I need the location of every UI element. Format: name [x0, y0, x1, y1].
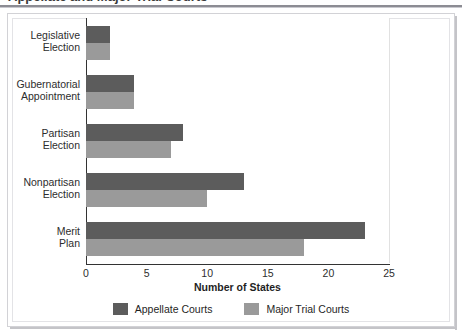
category-label-line: Nonpartisan — [0, 177, 80, 189]
title-divider-rule-secondary — [0, 7, 462, 8]
x-tick-label-0: 0 — [71, 267, 101, 279]
category-label-line: Election — [0, 189, 80, 201]
x-tick-label-25: 25 — [374, 267, 404, 279]
legend-swatch-icon — [113, 303, 128, 315]
bar-nonpartisan-election-appellate-courts — [86, 173, 244, 190]
category-label-nonpartisan-election: NonpartisanElection — [0, 177, 80, 200]
frame-shadow-bottom — [10, 327, 457, 329]
x-axis-title: Number of States — [86, 281, 389, 293]
bar-partisan-election-appellate-courts — [86, 124, 183, 141]
category-label-merit-plan: MeritPlan — [0, 226, 80, 249]
chart-legend: Appellate CourtsMajor Trial Courts — [0, 303, 462, 315]
category-label-line: Election — [0, 42, 80, 54]
legend-item-major-trial-courts: Major Trial Courts — [244, 303, 349, 315]
category-label-line: Appointment — [0, 91, 80, 103]
x-tick-label-10: 10 — [192, 267, 222, 279]
legend-label: Major Trial Courts — [266, 303, 349, 315]
category-label-line: Election — [0, 140, 80, 152]
category-label-partisan-election: PartisanElection — [0, 128, 80, 151]
bar-merit-plan-major-trial-courts — [86, 239, 304, 256]
category-label-line: Merit — [0, 226, 80, 238]
category-label-line: Legislative — [0, 30, 80, 42]
bar-gubernatorial-appointment-major-trial-courts — [86, 92, 134, 109]
legend-swatch-icon — [244, 303, 259, 315]
category-label-line: Plan — [0, 238, 80, 250]
category-label-line: Gubernatorial — [0, 79, 80, 91]
x-tick-label-20: 20 — [313, 267, 343, 279]
bar-merit-plan-appellate-courts — [86, 222, 365, 239]
cut-off-title-text: Appellate and Major Trial Courts — [8, 0, 207, 4]
frame-shadow-right — [455, 16, 457, 330]
x-axis-line — [86, 264, 390, 265]
category-label-line: Partisan — [0, 128, 80, 140]
legend-item-appellate-courts: Appellate Courts — [113, 303, 213, 315]
category-label-gubernatorial-appointment: GubernatorialAppointment — [0, 79, 80, 102]
bar-nonpartisan-election-major-trial-courts — [86, 190, 207, 207]
gridline-25 — [389, 18, 390, 263]
bar-gubernatorial-appointment-appellate-courts — [86, 75, 134, 92]
category-label-legislative-election: LegislativeElection — [0, 30, 80, 53]
bar-legislative-election-appellate-courts — [86, 26, 110, 43]
bar-legislative-election-major-trial-courts — [86, 43, 110, 60]
x-tick-label-5: 5 — [132, 267, 162, 279]
legend-label: Appellate Courts — [135, 303, 213, 315]
bar-partisan-election-major-trial-courts — [86, 141, 171, 158]
x-tick-label-15: 15 — [253, 267, 283, 279]
